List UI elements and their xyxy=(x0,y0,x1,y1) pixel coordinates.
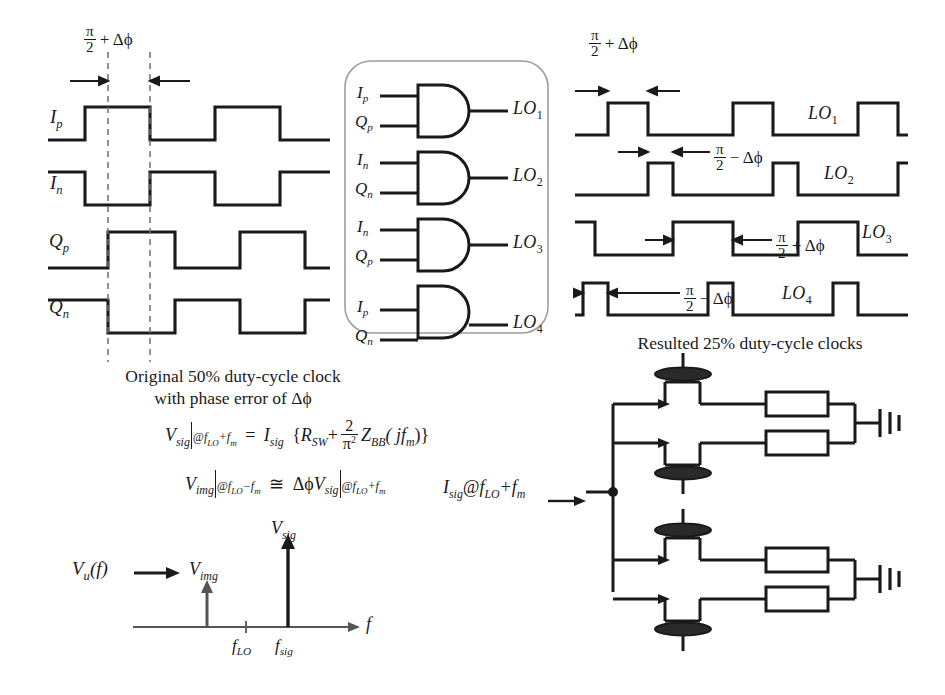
approx-equals-sign: ≅ xyxy=(269,474,284,494)
waveform-label-lo2: LO2 xyxy=(824,163,854,188)
gate-1-output-label: LO1 xyxy=(513,98,543,123)
lo4-phase-annotation: π 2 − Δϕ xyxy=(684,283,733,315)
spectrum-tick-label-fsig: fsig xyxy=(275,636,293,657)
evaluation-bar xyxy=(215,470,216,498)
signal-label-qn: Qn xyxy=(49,296,69,322)
gate-3-input-2-label: Qp xyxy=(355,246,373,267)
spectrum-input-label: Vu(f) xyxy=(72,558,108,584)
phase-operator: − xyxy=(700,289,710,308)
lo3-phase-annotation: π 2 + Δϕ xyxy=(776,230,825,262)
gate-4-input-1-label: Ip xyxy=(357,297,368,318)
waveform-label-lo1: LO1 xyxy=(808,103,838,128)
left-phase-annotation: π 2 + Δϕ xyxy=(84,24,133,56)
delta-phi: Δϕ xyxy=(743,148,763,167)
spectrum-tone-label-vimg: Vimg xyxy=(189,559,218,584)
equation-vsig: Vsig@fLO+fm = Isig {RSW+2π2ZBB( jfm)} xyxy=(165,418,429,453)
delta-phi: Δϕ xyxy=(713,289,733,308)
gate-2-input-2-label: Qn xyxy=(355,179,373,200)
spectrum-tick-label-flo: fLO xyxy=(232,636,251,657)
pi-over-two-fraction: π 2 xyxy=(776,230,788,262)
spectrum-x-axis-label: f xyxy=(366,614,371,635)
delta-phi: Δϕ xyxy=(618,34,638,53)
left-waveform-caption: Original 50% duty-cycle clock with phase… xyxy=(78,365,388,410)
gate-1-input-2-label: Qp xyxy=(355,112,373,133)
pi-over-two-fraction: π 2 xyxy=(684,283,696,315)
gate-1-input-1-label: Ip xyxy=(357,83,368,104)
pi-over-two-fraction: π 2 xyxy=(589,28,601,60)
gate-2-input-1-label: In xyxy=(357,150,368,171)
gate-3-output-label: LO3 xyxy=(513,232,543,257)
signal-label-ip: Ip xyxy=(50,106,63,132)
signal-label-in: In xyxy=(50,172,63,198)
waveform-label-lo4: LO4 xyxy=(782,283,812,308)
gate-3-input-1-label: In xyxy=(357,217,368,238)
text-layer: π 2 + Δϕ Ip In Qp Qn Ip Qp LO1 In Qn LO2… xyxy=(0,0,945,695)
caption-line-2: with phase error of Δϕ xyxy=(78,387,388,409)
evaluation-bar xyxy=(340,470,341,498)
equation-vimg: Vimg@fLO−fm ≅ ΔϕVsig@fLO+fm xyxy=(185,470,385,498)
signal-label-qp: Qp xyxy=(49,230,69,256)
lo2-phase-annotation: π 2 − Δϕ xyxy=(714,142,763,174)
gate-2-output-label: LO2 xyxy=(513,165,543,190)
gate-4-input-2-label: Qn xyxy=(355,326,373,347)
right-waveform-caption: Resulted 25% duty-cycle clocks xyxy=(600,332,900,354)
phase-operator: + xyxy=(605,34,615,53)
evaluation-bar xyxy=(191,422,192,450)
spectrum-tone-label-vsig: Vsig xyxy=(271,518,296,543)
right-phase-annotation: π 2 + Δϕ xyxy=(589,28,638,60)
pi-over-two-fraction: π 2 xyxy=(714,142,726,174)
mixer-input-label: Isig@fLO+fm xyxy=(443,477,525,502)
waveform-label-lo3: LO3 xyxy=(862,222,892,247)
gate-4-output-label: LO4 xyxy=(513,312,543,337)
delta-phi: Δϕ xyxy=(805,236,825,255)
phase-operator: + xyxy=(792,236,802,255)
phase-operator: − xyxy=(730,148,740,167)
two-over-pi-squared-fraction: 2π2 xyxy=(341,418,358,453)
equals-sign: = xyxy=(245,425,255,445)
delta-phi: Δϕ xyxy=(113,30,133,49)
pi-over-two-fraction: π 2 xyxy=(84,24,96,56)
phase-operator: + xyxy=(100,30,110,49)
caption-line-1: Original 50% duty-cycle clock xyxy=(78,365,388,387)
delta-phi: Δϕ xyxy=(293,474,314,494)
